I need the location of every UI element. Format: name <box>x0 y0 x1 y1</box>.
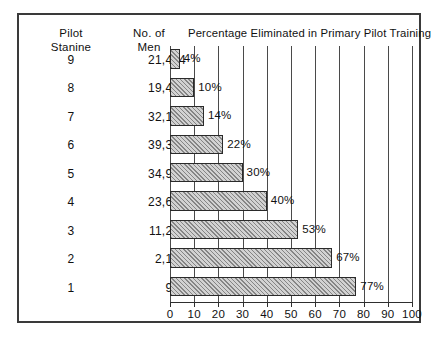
table-row: 639,39822% <box>170 131 412 159</box>
x-tick-0 <box>170 302 171 307</box>
x-tick-50 <box>291 302 292 307</box>
bar-value-label: 53% <box>298 220 326 240</box>
bar <box>170 248 332 268</box>
bar-value-label: 30% <box>243 163 271 183</box>
stanine-value: 6 <box>30 131 112 159</box>
table-row: 190477% <box>170 274 412 302</box>
plot-area: 921,4744%819,44410%732,12914%639,39822%5… <box>170 46 412 302</box>
table-row: 534,97530% <box>170 160 412 188</box>
x-tick-80 <box>364 302 365 307</box>
figure-container: Pilot Stanine No. of Men Percentage Elim… <box>0 0 441 337</box>
bar <box>170 49 180 69</box>
stanine-value: 1 <box>30 274 112 302</box>
table-row: 311,20953% <box>170 217 412 245</box>
x-tick-70 <box>339 302 340 307</box>
table-row: 423,69940% <box>170 188 412 216</box>
x-tick-90 <box>388 302 389 307</box>
x-tick-label-100: 100 <box>398 308 426 320</box>
gridline-100 <box>412 46 413 302</box>
bar <box>170 191 267 211</box>
table-row: 921,4744% <box>170 46 412 74</box>
bar <box>170 163 243 183</box>
chart-title: Percentage Eliminated in Primary Pilot T… <box>188 27 418 41</box>
stanine-value: 8 <box>30 74 112 102</box>
stanine-value: 5 <box>30 160 112 188</box>
bar <box>170 135 223 155</box>
stanine-value: 3 <box>30 217 112 245</box>
bar <box>170 277 356 297</box>
x-tick-40 <box>267 302 268 307</box>
stanine-value: 4 <box>30 188 112 216</box>
table-row: 22,13967% <box>170 245 412 273</box>
stanine-value: 2 <box>30 245 112 273</box>
bar <box>170 220 298 240</box>
stanine-value: 9 <box>30 46 112 74</box>
x-tick-10 <box>194 302 195 307</box>
bar-value-label: 22% <box>223 135 251 155</box>
bar-value-label: 14% <box>204 106 232 126</box>
bar-value-label: 10% <box>194 78 222 98</box>
bar <box>170 78 194 98</box>
x-tick-100 <box>412 302 413 307</box>
x-tick-60 <box>315 302 316 307</box>
table-row: 732,12914% <box>170 103 412 131</box>
table-row: 819,44410% <box>170 74 412 102</box>
bar-value-label: 77% <box>356 277 384 297</box>
bar-value-label: 40% <box>267 191 295 211</box>
bar-value-label: 4% <box>180 49 201 69</box>
bar-value-label: 67% <box>332 248 360 268</box>
x-tick-20 <box>218 302 219 307</box>
x-tick-30 <box>243 302 244 307</box>
bar <box>170 106 204 126</box>
stanine-value: 7 <box>30 103 112 131</box>
